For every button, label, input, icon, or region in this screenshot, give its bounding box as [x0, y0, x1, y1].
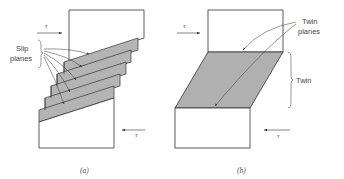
twin-planes-label-line1: Twin — [302, 17, 317, 26]
slip-planes-label-line1: Slip — [16, 44, 29, 53]
deformation-diagram — [0, 0, 344, 179]
twin-brace — [288, 52, 293, 108]
caption-a: (a) — [80, 166, 89, 175]
slip-planes-label-line2: planes — [10, 54, 32, 63]
panel-a-slip — [37, 10, 145, 148]
tau-label-bottom-b: τ — [277, 132, 280, 140]
top-block-b — [208, 10, 283, 52]
panel-b-twin — [175, 10, 296, 148]
twin-planes-label-line2: planes — [298, 27, 320, 36]
bottom-block-b — [175, 108, 250, 148]
slip-planes-brace — [38, 40, 43, 68]
tau-label-top-a: τ — [45, 22, 48, 30]
tau-label-bottom-a: τ — [135, 131, 138, 139]
caption-b: (b) — [237, 166, 246, 175]
twin-label: Twin — [296, 76, 311, 85]
tau-label-top-b: τ — [183, 22, 186, 30]
twin-region — [175, 52, 283, 108]
